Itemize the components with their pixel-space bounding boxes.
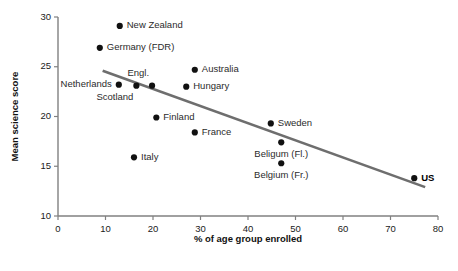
data-point[interactable]: Finland [153, 111, 194, 122]
data-point[interactable]: Australia [192, 63, 240, 74]
data-point-label: France [202, 126, 232, 137]
y-axis-tick-label: 30 [40, 11, 51, 22]
data-point-marker [192, 67, 198, 73]
y-axis-tick-label: 15 [40, 160, 51, 171]
data-point-label: Beligum (Fl.) [254, 148, 308, 159]
data-point-marker [278, 160, 284, 166]
x-axis-tick-label: 20 [148, 223, 159, 234]
data-point[interactable]: Hungary [183, 80, 229, 91]
x-axis: 01020304050607080 [55, 216, 443, 234]
y-axis: 1015202530 [40, 11, 58, 221]
x-axis-title: % of age group enrolled [194, 233, 302, 244]
data-point-marker [133, 83, 139, 89]
data-point-marker [117, 23, 123, 29]
data-point-label: Belgium (Fr.) [254, 169, 308, 180]
data-point-marker [149, 83, 155, 89]
data-point[interactable]: Italy [131, 151, 159, 162]
x-axis-tick-label: 0 [55, 223, 60, 234]
x-axis-tick-label: 80 [433, 223, 444, 234]
data-point-marker [116, 82, 122, 88]
data-point-label: Italy [141, 151, 159, 162]
data-point-marker [97, 45, 103, 51]
data-point-label: US [421, 172, 434, 183]
x-axis-tick-label: 70 [385, 223, 396, 234]
data-point[interactable]: Sweden [268, 117, 312, 128]
data-point-marker [278, 139, 284, 145]
data-point[interactable]: US [411, 172, 434, 183]
data-point-label: Australia [202, 63, 240, 74]
data-point-label: Finland [163, 111, 194, 122]
data-point[interactable]: Belgium (Fr.) [254, 160, 308, 180]
chart-canvas: 1015202530 01020304050607080 New Zealand… [0, 0, 458, 271]
x-axis-tick-label: 60 [338, 223, 349, 234]
data-point-marker [411, 175, 417, 181]
data-point-label: Germany (FDR) [107, 41, 175, 52]
data-points-layer: New ZealandGermany (FDR)AustraliaNetherl… [61, 19, 435, 182]
y-axis-title: Mean science score [9, 72, 20, 162]
data-point-marker [183, 84, 189, 90]
data-point-label: Sweden [278, 117, 312, 128]
data-point-marker [153, 114, 159, 120]
data-point-marker [268, 120, 274, 126]
data-point[interactable]: Netherlands [61, 78, 122, 89]
data-point-label: Engl. [127, 67, 149, 78]
y-axis-tick-label: 20 [40, 110, 51, 121]
x-axis-tick-label: 10 [100, 223, 111, 234]
y-axis-tick-label: 10 [40, 210, 51, 221]
data-point[interactable]: France [192, 126, 232, 137]
y-axis-tick-label: 25 [40, 60, 51, 71]
data-point-label: Scotland [96, 91, 133, 102]
science-score-scatter-chart: 1015202530 01020304050607080 New Zealand… [0, 0, 458, 271]
data-point-marker [131, 154, 137, 160]
data-point[interactable]: Germany (FDR) [97, 41, 175, 52]
data-point[interactable]: New Zealand [117, 19, 183, 30]
data-point-label: New Zealand [127, 19, 183, 30]
data-point-marker [192, 129, 198, 135]
data-point-label: Hungary [193, 80, 229, 91]
data-point-label: Netherlands [61, 78, 112, 89]
